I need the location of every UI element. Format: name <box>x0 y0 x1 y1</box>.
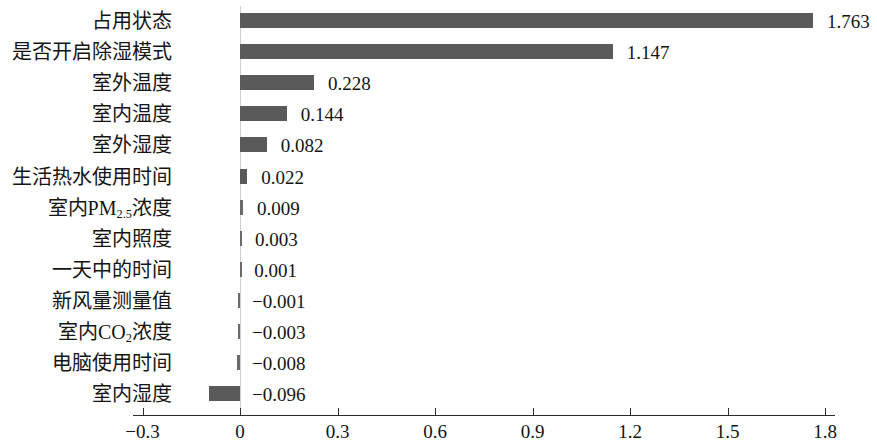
bar-value-label: −0.008 <box>252 354 305 373</box>
x-axis-tick <box>630 408 631 415</box>
x-axis-tick <box>435 408 436 415</box>
bar <box>240 200 243 215</box>
x-axis-tick-label: 0.6 <box>423 422 447 441</box>
x-axis-tick <box>825 408 826 415</box>
category-label: 电脑使用时间 <box>52 353 172 373</box>
plot-area: 1.7631.1470.2280.1440.0820.0220.0090.003… <box>0 0 877 447</box>
bar <box>240 169 247 184</box>
x-axis-tick-label: 1.8 <box>813 422 837 441</box>
axis-baseline <box>133 415 835 416</box>
x-axis-tick <box>533 408 534 415</box>
x-axis-tick-label: 0 <box>235 422 245 441</box>
category-label: 室内湿度 <box>92 384 172 404</box>
x-axis-tick <box>143 408 144 415</box>
bar-value-label: 0.082 <box>281 136 324 155</box>
horizontal-bar-chart: 1.7631.1470.2280.1440.0820.0220.0090.003… <box>0 0 877 447</box>
category-label: 室内温度 <box>92 104 172 124</box>
bar <box>238 293 240 308</box>
x-axis-tick-label: 0.3 <box>326 422 350 441</box>
x-axis-tick-label: 0.9 <box>521 422 545 441</box>
bar-value-label: 0.003 <box>255 230 298 249</box>
x-axis-tick-label: −0.3 <box>125 422 159 441</box>
bar-value-label: 0.001 <box>254 261 297 280</box>
bar-value-label: 1.763 <box>827 12 870 31</box>
x-axis-tick <box>728 408 729 415</box>
bar <box>240 137 267 152</box>
bar-value-label: 0.022 <box>261 168 304 187</box>
category-label: 占用状态 <box>92 11 172 31</box>
bar <box>240 262 242 277</box>
bar <box>237 355 240 370</box>
bar <box>238 324 240 339</box>
category-label: 是否开启除湿模式 <box>12 42 172 62</box>
bar <box>240 106 287 121</box>
bar <box>240 231 242 246</box>
bar-value-label: 1.147 <box>627 43 670 62</box>
bar <box>240 75 314 90</box>
bar-value-label: 0.009 <box>257 199 300 218</box>
category-label: 室外湿度 <box>92 135 172 155</box>
bar <box>209 386 240 401</box>
category-label: 室内照度 <box>92 229 172 249</box>
x-axis-tick <box>240 408 241 415</box>
bar-value-label: −0.096 <box>252 385 305 404</box>
category-label: 室内CO2浓度 <box>58 322 172 348</box>
category-label: 生活热水使用时间 <box>12 167 172 187</box>
bar <box>240 44 613 59</box>
x-axis-tick-label: 1.5 <box>716 422 740 441</box>
bar-value-label: 0.144 <box>301 105 344 124</box>
bar-value-label: −0.001 <box>252 292 305 311</box>
bar-value-label: −0.003 <box>252 323 305 342</box>
bar <box>240 13 813 28</box>
category-label: 新风量测量值 <box>52 291 172 311</box>
bar-value-label: 0.228 <box>328 74 371 93</box>
x-axis-tick <box>338 408 339 415</box>
x-axis-tick-label: 1.2 <box>618 422 642 441</box>
category-label: 室内PM2.5浓度 <box>48 198 172 224</box>
category-label: 一天中的时间 <box>52 260 172 280</box>
category-label: 室外温度 <box>92 73 172 93</box>
